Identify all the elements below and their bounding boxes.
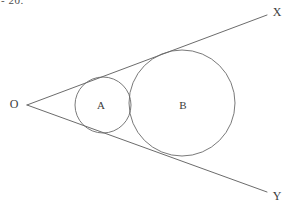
figure-canvas xyxy=(0,0,288,205)
circle-label-b: B xyxy=(179,100,186,111)
vertex-label-o: O xyxy=(10,98,19,110)
ray-ox-line xyxy=(27,15,267,105)
ray-label-y: Y xyxy=(273,190,282,202)
circle-label-a: A xyxy=(97,100,105,111)
ray-oy-line xyxy=(27,105,267,192)
geometry-figure: - 20. O X Y A B xyxy=(0,0,288,205)
ray-label-x: X xyxy=(273,6,282,18)
